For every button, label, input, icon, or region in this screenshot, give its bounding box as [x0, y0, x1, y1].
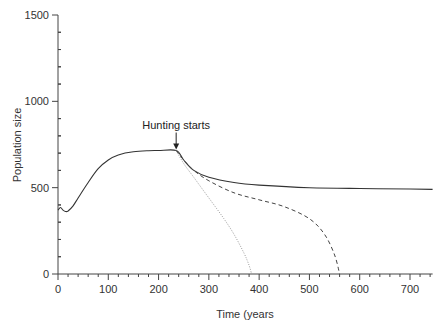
annotation-group: Hunting starts	[142, 119, 210, 150]
x-tick-label: 100	[99, 283, 117, 295]
series-dotted-line	[176, 151, 251, 274]
x-tick-label: 500	[300, 283, 318, 295]
series-solid-line	[58, 150, 433, 212]
x-tick-label: 200	[149, 283, 167, 295]
y-tick-label: 1500	[25, 9, 49, 21]
population-chart: 0100200300400500600700050010001500 Hunti…	[0, 0, 443, 325]
y-axis-label: Population size	[11, 108, 23, 183]
x-tick-label: 600	[351, 283, 369, 295]
y-tick-label: 500	[31, 182, 49, 194]
x-tick-label: 400	[250, 283, 268, 295]
x-tick-label: 0	[55, 283, 61, 295]
hunting-starts-label: Hunting starts	[142, 119, 210, 131]
y-tick-label: 0	[43, 268, 49, 280]
y-tick-label: 1000	[25, 95, 49, 107]
x-axis-label: Time (years	[216, 308, 274, 320]
series-group	[58, 150, 433, 274]
arrow-down-icon	[173, 144, 179, 150]
x-tick-label: 300	[200, 283, 218, 295]
x-tick-label: 700	[401, 283, 419, 295]
series-dashed-line	[176, 151, 339, 274]
axes: 0100200300400500600700050010001500	[25, 9, 433, 295]
